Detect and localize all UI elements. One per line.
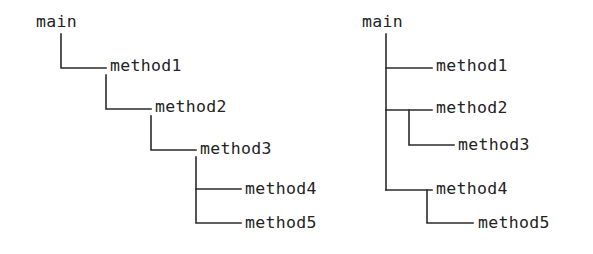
edge-method3-to-method4 [196,157,241,189]
node-label-method1: method1 [110,56,182,75]
node-label-method4: method4 [245,179,317,198]
call-tree-figure: main method1 method2 method3 method4 met… [0,0,593,254]
edge-method3-to-method5 [196,189,241,223]
edge-method2-to-method3 [151,116,196,150]
node-label-method4: method4 [436,179,508,198]
node-label-method2: method2 [155,97,227,116]
node-label-main: main [36,12,77,31]
right-tree-labels: main method1 method2 method3 method4 met… [362,12,550,232]
node-label-main: main [362,12,403,31]
node-label-method5: method5 [478,213,550,232]
node-label-method5: method5 [245,213,317,232]
edge-method1-to-method2 [106,75,151,109]
node-label-method1: method1 [436,56,508,75]
call-tree-svg: main method1 method2 method3 method4 met… [0,0,593,254]
right-call-tree: main method1 method2 method3 method4 met… [362,12,550,232]
node-label-method2: method2 [436,98,508,117]
node-label-method3: method3 [200,139,272,158]
node-label-method3: method3 [458,135,530,154]
left-tree-labels: main method1 method2 method3 method4 met… [36,12,317,232]
edge-main-to-method1 [61,34,106,68]
left-call-tree: main method1 method2 method3 method4 met… [36,12,317,232]
